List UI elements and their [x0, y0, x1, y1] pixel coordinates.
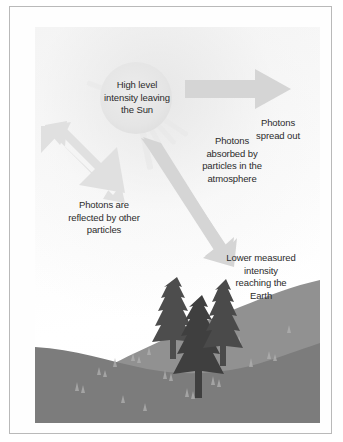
label-high-level-intensity: High level intensity leaving the Sun: [92, 79, 182, 117]
label-photons-absorbed: Photons absorbed by particles in the atm…: [185, 135, 279, 185]
label-lower-measured-intensity: Lower measured intensity reaching the Ea…: [213, 252, 309, 302]
label-photons-reflected: Photons are reflected by other particles: [45, 199, 163, 237]
figure-frame: High level intensity leaving the Sun Pho…: [9, 6, 332, 434]
arrow-spread-out: [183, 67, 293, 112]
arrow-reflected: [41, 119, 129, 205]
illustration-panel: High level intensity leaving the Sun Pho…: [35, 27, 320, 423]
